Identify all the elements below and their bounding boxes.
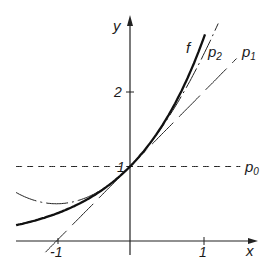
series-label-p0: p0 <box>244 158 259 177</box>
plot-area: x y -1 1 2 1 f p2 p1 p0 <box>16 15 259 260</box>
y-axis-arrow-icon <box>127 15 133 26</box>
series-label-p1: p1 <box>241 43 256 62</box>
x-tick-label-neg1: -1 <box>50 244 62 260</box>
series-f-line <box>16 34 205 225</box>
taylor-polynomial-chart: x y -1 1 2 1 f p2 p1 p0 <box>0 0 271 274</box>
x-tick-label-1: 1 <box>199 244 207 260</box>
y-tick-label-2: 2 <box>113 84 122 100</box>
y-tick-label-1: 1 <box>117 159 125 175</box>
y-axis-label: y <box>112 17 122 34</box>
x-axis-label: x <box>245 242 254 259</box>
series-label-p2: p2 <box>207 43 222 62</box>
series-label-f: f <box>186 39 192 56</box>
